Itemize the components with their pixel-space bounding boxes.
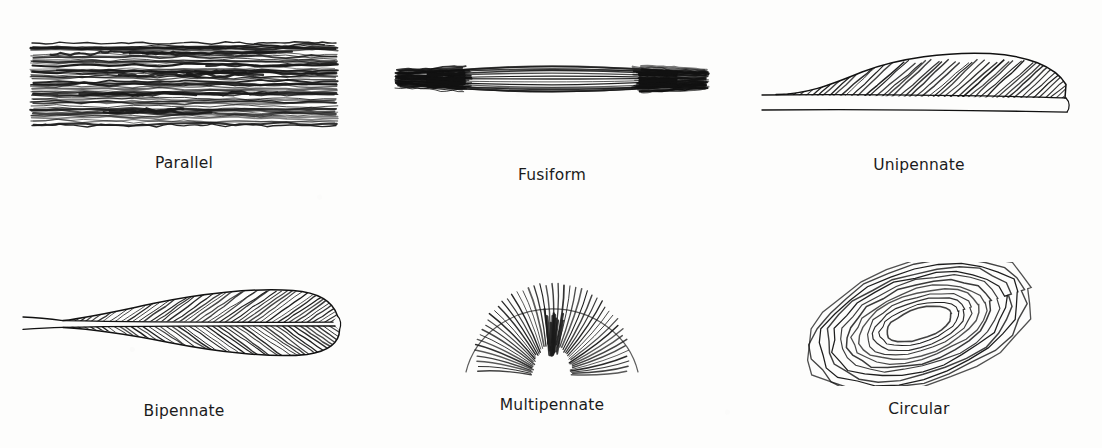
panel-label-fusiform: Fusiform: [518, 166, 586, 184]
multipennate-muscle-drawing: [452, 258, 652, 386]
panel-circular: Circular: [736, 262, 1102, 418]
circular-muscle-drawing: [793, 262, 1045, 386]
panel-multipennate: Multipennate: [368, 258, 736, 414]
panel-label-circular: Circular: [888, 400, 949, 418]
panel-label-unipennate: Unipennate: [873, 156, 965, 174]
panel-bipennate: Bipennate: [0, 272, 368, 420]
bipennate-muscle-drawing: [19, 272, 349, 376]
panel-fusiform: Fusiform: [368, 22, 736, 184]
panel-parallel: Parallel: [0, 36, 368, 172]
panel-label-bipennate: Bipennate: [144, 402, 225, 420]
unipennate-muscle-drawing: [758, 36, 1080, 126]
fusiform-muscle-drawing: [392, 22, 712, 132]
panel-label-parallel: Parallel: [155, 154, 213, 172]
muscle-architecture-figure: Parallel Fusiform Unipennate: [0, 0, 1102, 448]
panel-unipennate: Unipennate: [736, 36, 1102, 174]
panel-label-multipennate: Multipennate: [500, 396, 604, 414]
parallel-muscle-drawing: [24, 36, 344, 132]
